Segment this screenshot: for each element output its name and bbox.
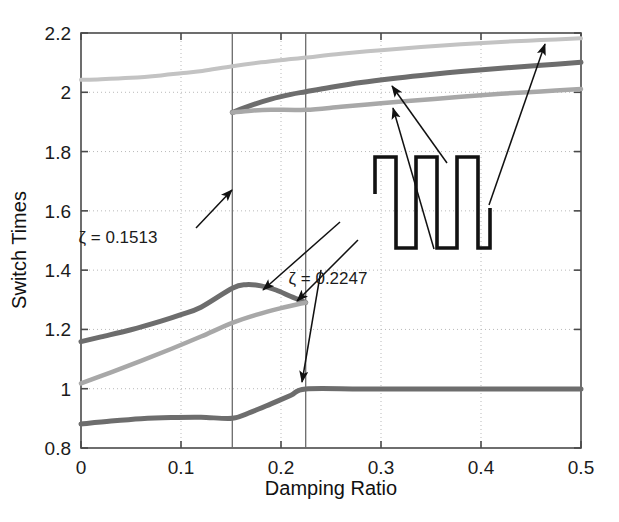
zeta-1-annotation-text: ζ = 0.1513 xyxy=(79,228,158,247)
figure-root: 0.811.21.41.61.822.200.10.20.30.40.5 ζ =… xyxy=(0,0,619,522)
x-axis-title: Damping Ratio xyxy=(265,477,397,499)
y-tick-label: 2 xyxy=(60,82,71,103)
x-tick-label: 0 xyxy=(76,457,87,478)
switch-time-mid-medium xyxy=(81,302,306,383)
switch-times-chart: 0.811.21.41.61.822.200.10.20.30.40.5 ζ =… xyxy=(0,0,619,522)
bang-bang-control-profile xyxy=(375,157,490,248)
x-tick-label: 0.1 xyxy=(168,457,194,478)
zeta-1-annotation-arrow xyxy=(196,190,232,228)
y-tick-label: 0.8 xyxy=(45,438,71,459)
x-tick-label: 0.2 xyxy=(268,457,294,478)
y-tick-label: 1.8 xyxy=(45,142,71,163)
arrow-to-upper-medium xyxy=(393,108,434,249)
y-tick-label: 1 xyxy=(60,379,71,400)
switch-time-upper-dark xyxy=(232,62,581,112)
zeta-2-annotation-text: ζ = 0.2247 xyxy=(289,269,368,288)
control-profile-inset xyxy=(375,157,490,248)
y-tick-label: 2.2 xyxy=(45,23,71,44)
y-tick-label: 1.6 xyxy=(45,201,71,222)
switch-time-upper-light xyxy=(81,38,581,80)
x-tick-label: 0.5 xyxy=(568,457,594,478)
x-tick-label: 0.4 xyxy=(468,457,495,478)
y-axis-title: Switch Times xyxy=(8,191,30,309)
y-tick-label: 1.4 xyxy=(45,260,72,281)
switch-time-mid-dark xyxy=(81,285,306,342)
y-tick-label: 1.2 xyxy=(45,319,71,340)
x-tick-label: 0.3 xyxy=(368,457,394,478)
switch-time-lower-dark xyxy=(81,389,581,424)
